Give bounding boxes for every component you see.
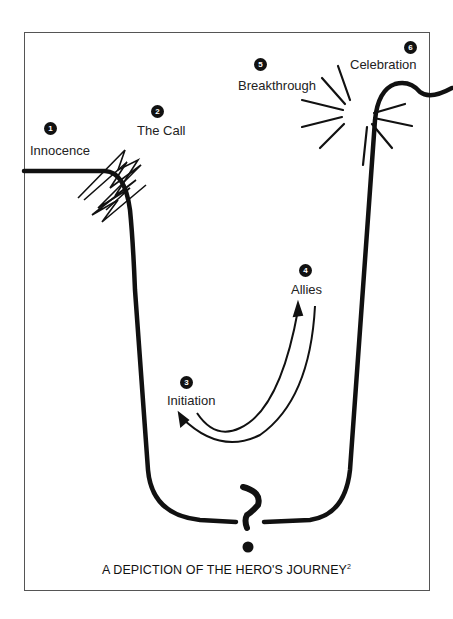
caption-text: A DEPICTION OF THE HERO'S JOURNEY	[102, 563, 347, 577]
stage-1-label: Innocence	[30, 144, 90, 157]
stage-4-label: Allies	[291, 283, 322, 296]
footnote-marker: 2	[347, 563, 351, 570]
journey-diagram	[0, 0, 453, 619]
stage-3-badge: 3	[180, 376, 193, 389]
stage-6-badge: 6	[404, 41, 417, 54]
diagram-caption: A DEPICTION OF THE HERO'S JOURNEY2	[0, 563, 453, 577]
question-mark-icon	[243, 487, 259, 553]
stage-1-badge: 1	[44, 122, 57, 135]
cycle-arrows-icon	[179, 303, 315, 442]
stage-5-label: Breakthrough	[238, 79, 316, 92]
stage-2-badge: 2	[151, 105, 164, 118]
breakthrough-rays-icon	[302, 66, 412, 165]
stage-2-label: The Call	[137, 124, 185, 137]
stage-4-badge: 4	[299, 264, 312, 277]
call-burst-icon	[78, 150, 146, 222]
stage-5-badge: 5	[254, 58, 267, 71]
stage-6-label: Celebration	[350, 58, 417, 71]
stage-3-label: Initiation	[167, 394, 215, 407]
